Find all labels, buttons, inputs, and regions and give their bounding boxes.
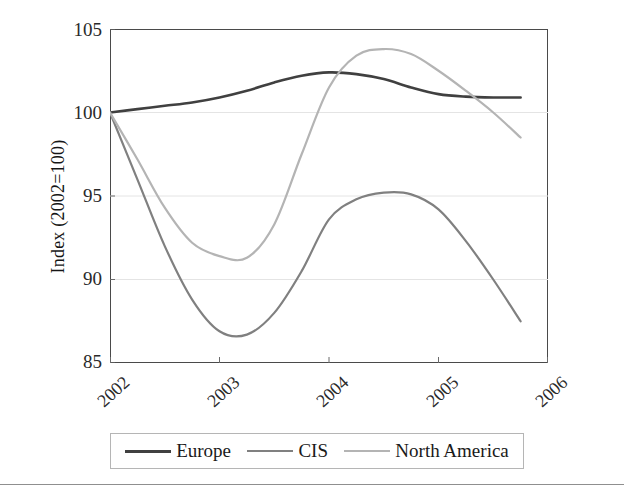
legend-entry-europe: Europe <box>125 440 231 462</box>
legend-label-cis: CIS <box>298 440 328 462</box>
line-chart-figure: Index (2002=100) 105 100 95 90 85 2002 2… <box>0 0 624 494</box>
x-tick-label-2002: 2002 <box>64 372 135 438</box>
legend-label-north-america: North America <box>395 440 508 462</box>
legend-swatch-europe <box>125 450 171 453</box>
legend-swatch-cis <box>247 450 293 452</box>
x-tick-label-2005: 2005 <box>393 372 464 438</box>
page-divider-rule <box>0 484 624 485</box>
x-tick-label-2004: 2004 <box>283 372 354 438</box>
x-tick-label-2003: 2003 <box>174 372 245 438</box>
chart-legend: Europe CIS North America <box>110 433 524 469</box>
x-tick-label-2006: 2006 <box>502 372 573 438</box>
legend-swatch-north-america <box>344 450 390 452</box>
legend-entry-cis: CIS <box>247 440 328 462</box>
x-axis-tick-labels: 2002 2003 2004 2005 2006 <box>0 0 624 494</box>
legend-label-europe: Europe <box>176 440 231 462</box>
legend-entry-north-america: North America <box>344 440 508 462</box>
